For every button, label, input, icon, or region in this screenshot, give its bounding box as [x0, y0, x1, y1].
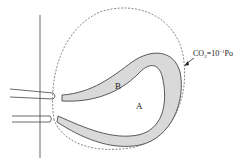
lower-pipe [12, 116, 52, 122]
diagram-canvas: B A CO2=10−1Po [0, 0, 249, 158]
gray-band [57, 53, 181, 146]
label-a: A [136, 101, 143, 111]
label-b: B [115, 81, 121, 91]
upper-pipe [10, 89, 55, 99]
co2-annotation: CO2=10−1Po [193, 49, 233, 59]
arrow-head-icon [184, 61, 189, 66]
